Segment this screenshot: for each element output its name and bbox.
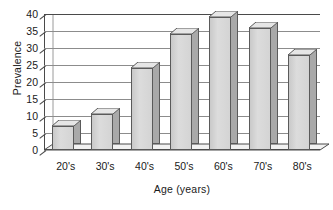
x-axis-tick-label: 30's bbox=[85, 160, 124, 172]
x-axis-title: Age (years) bbox=[44, 183, 320, 195]
bar-front-face bbox=[91, 114, 113, 150]
bar-chart: Prevalence 0510152025303540 20's30's40's… bbox=[0, 0, 333, 210]
y-axis-tick-label: 5 bbox=[16, 128, 38, 139]
bar-front-face bbox=[170, 34, 192, 150]
y-axis-tick-label: 15 bbox=[16, 94, 38, 105]
bar bbox=[131, 62, 153, 150]
bar bbox=[288, 49, 310, 150]
bars-layer bbox=[44, 14, 320, 150]
y-axis-tick-mark bbox=[39, 150, 46, 156]
bar bbox=[209, 11, 231, 150]
bar-side-face bbox=[310, 49, 317, 144]
bar-front-face bbox=[52, 126, 74, 150]
bar-top-face bbox=[288, 49, 317, 55]
y-axis-tick-label: 10 bbox=[16, 111, 38, 122]
x-axis-tick-label: 40's bbox=[125, 160, 164, 172]
x-axis-tick-label: 70's bbox=[243, 160, 282, 172]
bar bbox=[52, 120, 74, 150]
y-axis-tick-label: 25 bbox=[16, 60, 38, 71]
y-axis-tick-label: 35 bbox=[16, 26, 38, 37]
bar-top-face bbox=[249, 22, 278, 28]
bar bbox=[249, 22, 271, 150]
bar-front-face bbox=[249, 28, 271, 150]
bar-side-face bbox=[271, 22, 278, 144]
bar-top-face bbox=[91, 108, 120, 114]
bar-top-face bbox=[52, 120, 81, 126]
x-axis-tick-label: 50's bbox=[164, 160, 203, 172]
y-axis-tick-labels: 0510152025303540 bbox=[16, 8, 38, 156]
bar-front-face bbox=[131, 68, 153, 150]
x-axis-tick-labels: 20's30's40's50's60's70's80's bbox=[44, 160, 329, 176]
y-axis-tick-label: 30 bbox=[16, 43, 38, 54]
bar-top-face bbox=[131, 62, 160, 68]
bar-front-face bbox=[288, 55, 310, 150]
y-axis-tick-label: 0 bbox=[16, 145, 38, 156]
bar-side-face bbox=[192, 28, 199, 144]
x-axis-tick-label: 20's bbox=[46, 160, 85, 172]
bar bbox=[91, 108, 113, 150]
bar-front-face bbox=[209, 17, 231, 150]
bar-top-face bbox=[170, 28, 199, 34]
bar-side-face bbox=[153, 62, 160, 144]
y-axis-tick-label: 40 bbox=[16, 9, 38, 20]
x-axis-tick-label: 80's bbox=[283, 160, 322, 172]
bar-side-face bbox=[231, 11, 238, 144]
bar bbox=[170, 28, 192, 150]
bar-top-face bbox=[209, 11, 238, 17]
x-axis-tick-label: 60's bbox=[204, 160, 243, 172]
y-axis-tick-label: 20 bbox=[16, 77, 38, 88]
